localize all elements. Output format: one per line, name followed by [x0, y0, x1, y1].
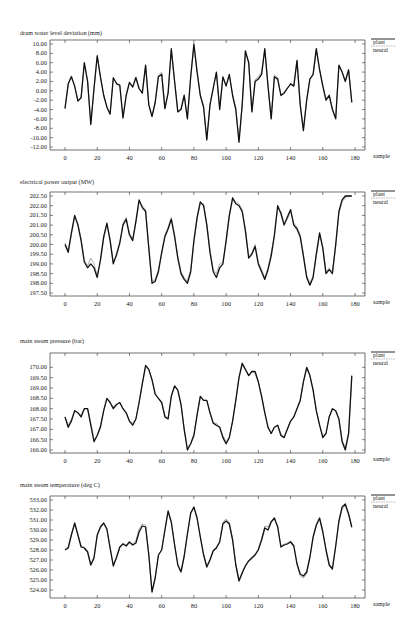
legend-label-plant: plant — [373, 191, 385, 197]
y-tick-label: -8.00 — [34, 124, 47, 131]
x-tick-label: 80 — [191, 300, 197, 307]
y-tick-label: 4.00 — [36, 68, 47, 75]
y-tick-label: 526.00 — [29, 566, 47, 573]
legend-label-neural: neural — [373, 199, 388, 205]
y-tick-label: 202.00 — [29, 202, 47, 209]
y-tick-label: 198.00 — [29, 279, 47, 286]
legend: plantneural — [371, 191, 395, 205]
y-tick-label: 10.00 — [33, 40, 47, 47]
legend: plantneural — [371, 39, 395, 53]
y-tick-label: 199.50 — [29, 250, 47, 257]
y-tick-label: 167.00 — [29, 425, 47, 432]
x-tick-label: 100 — [221, 300, 231, 307]
chart-title: drum water level deviation (mm) — [20, 29, 102, 37]
chart-title: main steam temperature (deg C) — [20, 481, 100, 489]
chart-panel-1: drum water level deviation (mm)10.008.00… — [20, 29, 395, 161]
x-tick-label: 80 — [191, 602, 197, 609]
legend: plantneural — [371, 495, 395, 509]
y-tick-label: 200.50 — [29, 231, 47, 238]
y-tick-label: 199.00 — [29, 260, 47, 267]
figure: drum water level deviation (mm)10.008.00… — [0, 0, 414, 634]
x-tick-label: 140 — [286, 457, 296, 464]
series-line-plant — [65, 363, 352, 450]
x-tick-label: 160 — [318, 602, 328, 609]
legend-label-neural: neural — [373, 360, 388, 366]
y-tick-label: 202.50 — [29, 192, 47, 199]
y-tick-label: 201.50 — [29, 211, 47, 218]
x-tick-label: 180 — [350, 602, 360, 609]
x-tick-label: 160 — [318, 457, 328, 464]
y-tick-label: 166.00 — [29, 446, 47, 453]
x-tick-label: 60 — [158, 154, 164, 161]
x-tick-label: 160 — [318, 300, 328, 307]
y-tick-label: 527.00 — [29, 556, 47, 563]
y-tick-label: -12.00 — [30, 143, 47, 150]
x-tick-label: 40 — [126, 602, 132, 609]
x-tick-label: 60 — [158, 300, 164, 307]
x-axis-label: sample — [373, 456, 390, 462]
y-tick-label: 529.00 — [29, 536, 47, 543]
y-tick-label: 533.00 — [29, 496, 47, 503]
y-tick-label: 197.50 — [29, 289, 47, 296]
y-tick-label: 8.00 — [36, 49, 47, 56]
x-axis-label: sample — [373, 153, 390, 159]
y-tick-label: 524.00 — [29, 586, 47, 593]
x-tick-label: 60 — [158, 457, 164, 464]
x-tick-label: 100 — [221, 602, 231, 609]
x-tick-label: 80 — [191, 457, 197, 464]
y-tick-label: 198.50 — [29, 270, 47, 277]
x-tick-label: 120 — [254, 300, 264, 307]
chart-panel-2: electrical power output (MW)202.50202.00… — [20, 178, 395, 307]
x-tick-label: 140 — [286, 300, 296, 307]
x-tick-label: 0 — [63, 300, 66, 307]
y-tick-label: 166.50 — [29, 436, 47, 443]
y-tick-label: 201.00 — [29, 221, 47, 228]
x-tick-label: 100 — [221, 154, 231, 161]
x-tick-label: 180 — [350, 300, 360, 307]
series-line-plant — [65, 44, 352, 142]
x-tick-label: 120 — [254, 602, 264, 609]
y-tick-label: 525.00 — [29, 576, 47, 583]
x-tick-label: 20 — [94, 602, 100, 609]
series-line-plant — [65, 196, 352, 285]
y-tick-label: 167.50 — [29, 415, 47, 422]
y-tick-label: -10.00 — [30, 134, 47, 141]
x-axis-label: sample — [373, 601, 390, 607]
x-tick-label: 20 — [94, 457, 100, 464]
y-tick-label: 169.50 — [29, 374, 47, 381]
y-tick-label: 168.50 — [29, 394, 47, 401]
legend-label-plant: plant — [373, 352, 385, 358]
y-tick-label: 170.00 — [29, 363, 47, 370]
legend-label-neural: neural — [373, 503, 388, 509]
y-tick-label: -4.00 — [34, 106, 47, 113]
legend-label-plant: plant — [373, 39, 385, 45]
x-tick-label: 40 — [126, 154, 132, 161]
y-tick-label: 169.00 — [29, 384, 47, 391]
x-tick-label: 120 — [254, 154, 264, 161]
x-tick-label: 40 — [126, 457, 132, 464]
y-tick-label: 532.00 — [29, 506, 47, 513]
y-tick-label: 168.00 — [29, 405, 47, 412]
y-tick-label: 2.00 — [36, 77, 47, 84]
x-axis-label: sample — [373, 299, 390, 305]
x-tick-label: 20 — [94, 300, 100, 307]
y-tick-label: 531.00 — [29, 516, 47, 523]
y-tick-label: 530.00 — [29, 526, 47, 533]
x-tick-label: 180 — [350, 154, 360, 161]
x-tick-label: 180 — [350, 457, 360, 464]
x-tick-label: 120 — [254, 457, 264, 464]
series-line-plant — [65, 504, 352, 592]
y-tick-label: 6.00 — [36, 59, 47, 66]
chart-panel-3: main steam pressure (bar)170.00169.50169… — [20, 337, 395, 464]
x-tick-label: 60 — [158, 602, 164, 609]
x-tick-label: 0 — [63, 457, 66, 464]
legend-label-plant: plant — [373, 495, 385, 501]
legend-label-neural: neural — [373, 47, 388, 53]
x-tick-label: 100 — [221, 457, 231, 464]
legend: plantneural — [371, 352, 395, 366]
series-line-neural — [65, 506, 352, 591]
x-tick-label: 20 — [94, 154, 100, 161]
chart-panel-4: main steam temperature (deg C)533.00532.… — [20, 481, 395, 609]
x-tick-label: 0 — [63, 602, 66, 609]
x-tick-label: 160 — [318, 154, 328, 161]
